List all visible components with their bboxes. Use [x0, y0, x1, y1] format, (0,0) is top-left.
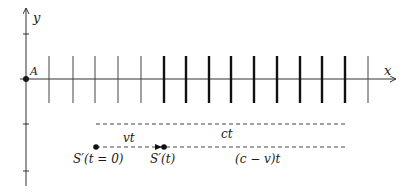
s-t-point [161, 144, 167, 150]
x-axis-label: x [384, 63, 392, 78]
s-start-point [93, 144, 99, 150]
c-minus-v-t-label: (c − v)t [235, 152, 281, 166]
vt-label: vt [123, 131, 135, 145]
s-t-label: S′(t) [150, 152, 175, 166]
motion-arrowhead-icon [155, 144, 162, 150]
s-start-label: S′(t = 0) [73, 152, 124, 166]
light-clock-diagram: y x A ct vt (c − v)t S′(t = 0) S′(t) [0, 0, 413, 193]
origin-point [23, 76, 29, 82]
origin-label: A [29, 65, 38, 78]
ct-label: ct [221, 127, 233, 141]
y-axis-label: y [32, 10, 41, 25]
